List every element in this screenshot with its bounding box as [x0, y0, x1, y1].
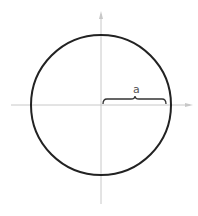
y-axis-arrow-icon [99, 11, 103, 19]
radius-label: a [133, 83, 140, 96]
diagram-canvas: a [0, 0, 198, 216]
radius-brace [103, 96, 166, 104]
x-axis-arrow-icon [185, 103, 193, 107]
